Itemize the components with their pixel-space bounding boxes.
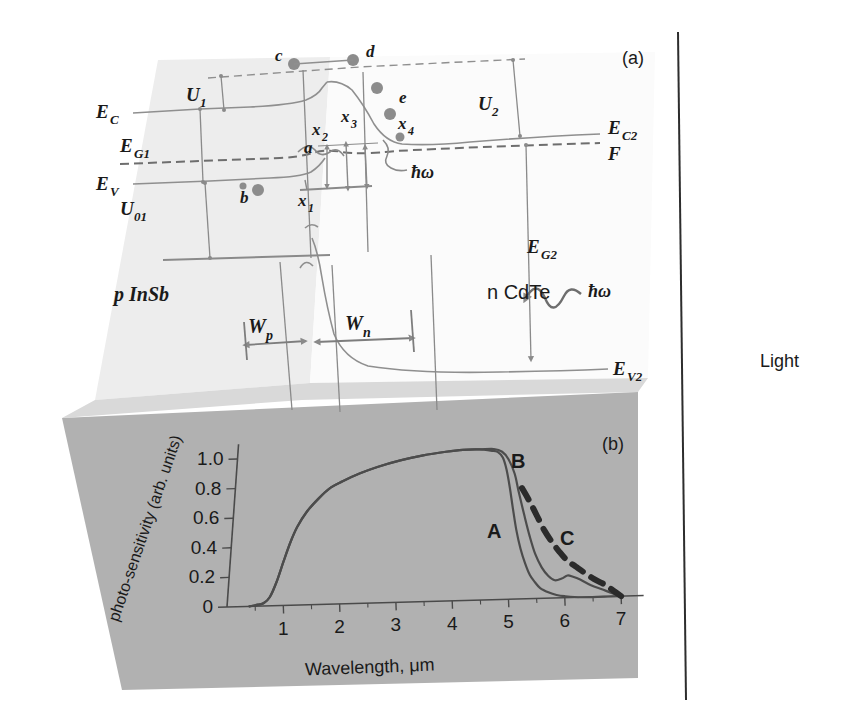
label-ec-main: E [95,101,109,122]
label-wp-main: W [248,315,267,337]
label-x4-main: x [397,114,407,133]
label-u01-sub: 01 [134,209,147,224]
y-tick-label: 0.8 [195,478,221,499]
x-tick-label: 6 [560,610,571,631]
label-carrier-a: a [304,138,313,157]
x-tick-label: 1 [278,618,289,639]
x-tick-label: 5 [503,611,514,632]
dot-e [384,108,396,120]
label-eg2-sub: G2 [541,247,557,262]
label-x3-sub: 3 [350,117,357,131]
dot-b [252,184,264,196]
material-left-label: p InSb [112,283,169,306]
label-ev2-sub: V2 [627,369,643,384]
label-ev: E V [95,173,120,199]
light-label: Light [760,351,799,371]
label-ev-main: E [95,173,109,194]
label-x1-main: x [297,191,307,210]
block-right-edge [678,32,686,700]
label-carrier-b: b [240,188,249,207]
y-tick-label: 0 [202,596,213,617]
label-x2-main: x [311,120,321,139]
three-d-block [62,32,686,700]
label-carrier-d: d [366,42,375,61]
x-tick-label: 3 [391,614,402,635]
curve-label-b: B [511,450,525,472]
label-u1-sub: 1 [200,95,207,110]
label-u01-main: U [120,198,135,219]
x-tick-label: 7 [616,608,627,629]
curve-label-a: A [487,520,501,542]
label-x2-sub: 2 [321,130,328,144]
photon-label-junction: ħω [411,162,434,182]
figure-root: (a) Light [0,0,863,717]
label-ev-sub: V [110,184,120,199]
label-ec-sub: C [110,112,119,127]
label-eg2-main: E [526,236,540,257]
label-u1-main: U [186,84,201,105]
label-carrier-e: e [399,88,407,107]
label-ev2-main: E [612,358,626,379]
label-x4-sub: 4 [407,124,414,138]
panel-b-tag: (b) [602,434,624,454]
label-ec: E C [95,101,119,127]
label-x1-sub: 1 [308,201,314,215]
dot-d2 [371,82,383,94]
label-eg1-main: E [119,135,133,156]
label-wn-main: W [345,312,364,334]
figure-svg: (a) Light [0,0,863,717]
label-x3-main: x [340,107,350,126]
label-wp-sub: p [265,328,273,343]
label-u2-sub: 2 [491,104,499,119]
y-tick-label: 0.4 [191,537,218,558]
label-eg1-sub: G1 [134,146,150,161]
x-tick-label: 4 [447,613,458,634]
label-u2-main: U [478,93,493,114]
label-ec2-main: E [607,117,621,138]
panel-a-tag: (a) [622,48,644,68]
curve-label-c: C [560,527,574,549]
y-tick-label: 0.2 [189,566,215,587]
dot-e2 [396,133,405,142]
label-ec2-sub: C2 [622,128,638,143]
x-tick-label: 2 [334,616,345,637]
label-carrier-c: c [275,46,283,65]
label-fermi: F [607,143,621,164]
y-tick-label: 0.6 [193,507,219,528]
photon-label-right: ħω [588,281,611,301]
label-wn-sub: n [363,325,371,340]
y-tick-label: 1.0 [197,448,223,469]
material-right-label: n CdTe [487,281,550,303]
